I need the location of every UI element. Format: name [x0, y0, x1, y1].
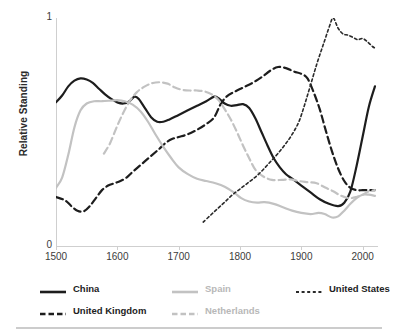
- chart-title-sliver: [46, 0, 376, 4]
- x-tick-mark-1500: [56, 246, 57, 250]
- bottom-divider-rule: [16, 327, 382, 329]
- chart-legend: ChinaUnited KingdomSpainNetherlandsUnite…: [14, 281, 384, 321]
- y-tick-label-top: 1: [36, 11, 52, 22]
- x-tick-label-1700: 1700: [159, 251, 199, 262]
- series-line-united-kingdom: [56, 67, 375, 212]
- x-tick-label-1800: 1800: [220, 251, 260, 262]
- legend-label-netherlands: Netherlands: [205, 305, 260, 316]
- legend-item-netherlands[interactable]: Netherlands: [172, 303, 260, 317]
- legend-label-us: United States: [329, 283, 390, 294]
- legend-swatch-spain-icon: [172, 283, 198, 293]
- x-tick-mark-1800: [240, 246, 241, 250]
- legend-swatch-uk-icon: [40, 305, 66, 315]
- legend-label-uk: United Kingdom: [73, 305, 146, 316]
- y-axis-title: Relative Standing: [18, 49, 29, 179]
- legend-swatch-us-icon: [296, 283, 322, 293]
- legend-item-spain[interactable]: Spain: [172, 281, 231, 295]
- x-tick-label-1900: 1900: [281, 251, 321, 262]
- x-axis-line: [56, 246, 378, 247]
- x-tick-mark-1600: [117, 246, 118, 250]
- legend-item-china[interactable]: China: [40, 281, 99, 295]
- series-line-spain: [56, 100, 375, 218]
- x-tick-label-1600: 1600: [97, 251, 137, 262]
- legend-item-us[interactable]: United States: [296, 281, 390, 295]
- x-tick-mark-1700: [179, 246, 180, 250]
- chart-figure: 1 0 Relative Standing 150016001700180019…: [0, 0, 398, 336]
- x-tick-label-2000: 2000: [343, 251, 383, 262]
- legend-swatch-netherlands-icon: [172, 305, 198, 315]
- y-tick-label-bottom: 0: [36, 239, 52, 250]
- plot-area: [56, 18, 378, 246]
- legend-swatch-china-icon: [40, 283, 66, 293]
- x-tick-mark-1900: [301, 246, 302, 250]
- legend-item-uk[interactable]: United Kingdom: [40, 303, 146, 317]
- series-canvas: [56, 18, 378, 246]
- series-line-netherlands: [104, 82, 375, 198]
- legend-label-spain: Spain: [205, 283, 231, 294]
- x-tick-label-1500: 1500: [36, 251, 76, 262]
- x-tick-mark-2000: [363, 246, 364, 250]
- legend-label-china: China: [73, 283, 99, 294]
